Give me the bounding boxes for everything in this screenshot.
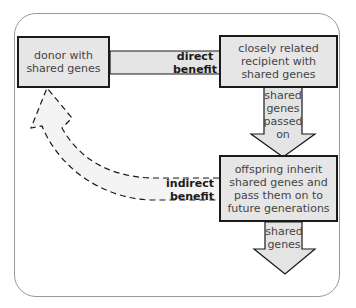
donor-label: donor with shared genes: [23, 49, 104, 75]
direct-benefit-label: direct benefit: [160, 50, 230, 76]
shared-genes-onward-label: shared genes: [263, 225, 305, 251]
offspring-label: offspring inherit shared genes and pass …: [225, 163, 332, 215]
indirect-benefit-label: indirect benefit: [150, 177, 214, 203]
donor-box: donor with shared genes: [17, 36, 110, 88]
shared-genes-passed-on-label: shared genes passed on: [262, 89, 304, 141]
recipient-box: closely related recipient with shared ge…: [219, 35, 338, 88]
recipient-label: closely related recipient with shared ge…: [225, 42, 332, 81]
offspring-box: offspring inherit shared genes and pass …: [219, 155, 338, 222]
